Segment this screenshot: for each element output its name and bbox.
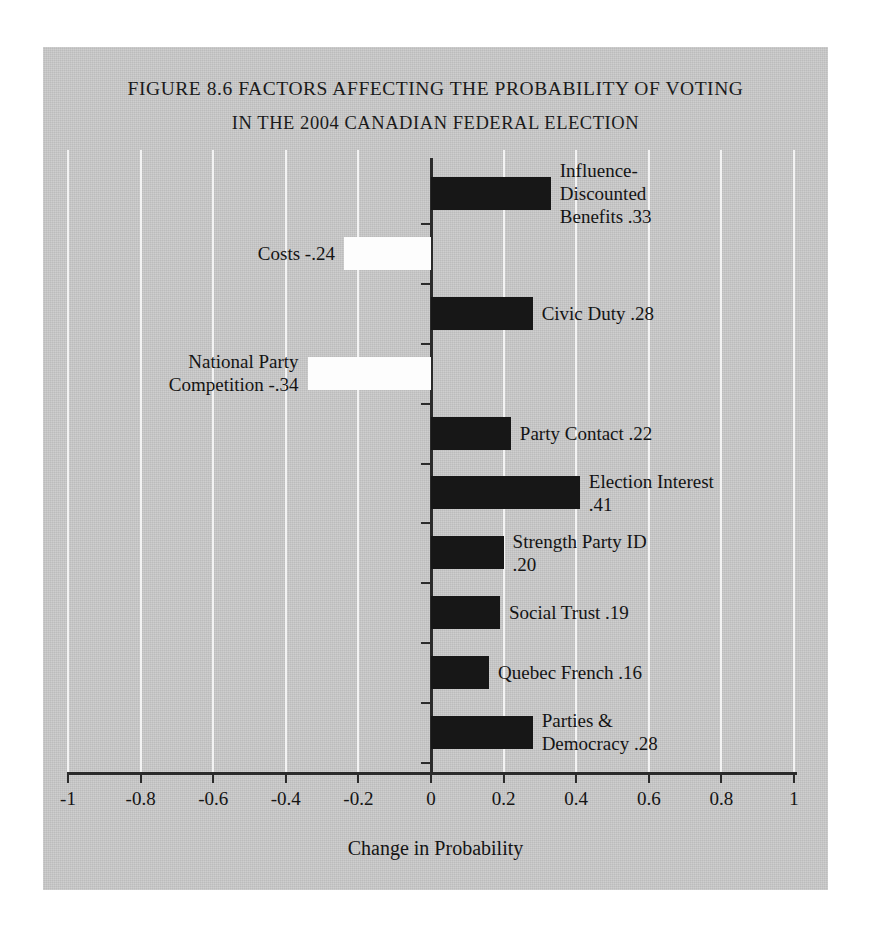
bar-national-party-competition xyxy=(308,357,431,390)
bar-label-strength-party-id: Strength Party ID .20 xyxy=(513,530,647,576)
chart-title-line-2: in the 2004 Canadian Federal Election xyxy=(43,106,828,140)
gridline--0.8 xyxy=(140,150,142,772)
x-tick-label--0.6: -0.6 xyxy=(198,788,228,810)
x-tick-label-0: 0 xyxy=(426,788,436,810)
gridline-0.8 xyxy=(720,150,722,772)
x-axis-line xyxy=(68,772,797,775)
x-tick-0.6 xyxy=(648,772,650,783)
page-title: Figure 8.6 Factors Affecting the Probabi… xyxy=(43,72,828,140)
bar-label-national-party-competition: National Party Competition -.34 xyxy=(169,350,299,396)
gridline--0.6 xyxy=(212,150,214,772)
bar-label-influence-discounted-benefits: Influence- Discounted Benefits .33 xyxy=(560,159,652,228)
x-tick-label-0.8: 0.8 xyxy=(710,788,734,810)
x-tick-label-0.6: 0.6 xyxy=(637,788,661,810)
bar-label-civic-duty: Civic Duty .28 xyxy=(542,302,654,325)
bar-election-interest xyxy=(431,476,580,509)
bar-label-parties-democracy: Parties & Democracy .28 xyxy=(542,709,658,755)
bar-influence-discounted-benefits xyxy=(431,177,551,210)
x-tick-1 xyxy=(793,772,795,783)
bar-costs xyxy=(344,237,431,270)
y-axis-tick xyxy=(421,702,430,704)
bar-label-election-interest: Election Interest .41 xyxy=(589,470,714,516)
x-tick-label-1: 1 xyxy=(789,788,799,810)
x-tick-label--0.8: -0.8 xyxy=(126,788,156,810)
bar-label-social-trust: Social Trust .19 xyxy=(509,601,629,624)
bar-label-costs: Costs -.24 xyxy=(258,242,335,265)
x-tick--0.4 xyxy=(285,772,287,783)
x-tick-label--1: -1 xyxy=(60,788,76,810)
gridline-0.6 xyxy=(648,150,650,772)
gridline-1 xyxy=(793,150,795,772)
bar-label-quebec-french: Quebec French .16 xyxy=(498,661,642,684)
x-tick--0.2 xyxy=(357,772,359,783)
gridline--1 xyxy=(67,150,69,772)
x-tick-0 xyxy=(430,772,432,783)
x-tick-label--0.4: -0.4 xyxy=(271,788,301,810)
chart-title-line-1: Figure 8.6 Factors Affecting the Probabi… xyxy=(43,72,828,106)
x-tick--0.6 xyxy=(212,772,214,783)
y-axis-tick xyxy=(421,582,430,584)
x-tick--1 xyxy=(67,772,69,783)
x-tick-0.2 xyxy=(503,772,505,783)
y-axis-tick xyxy=(421,403,430,405)
bar-label-party-contact: Party Contact .22 xyxy=(520,422,652,445)
plot-area: Influence- Discounted Benefits .33Costs … xyxy=(68,150,794,772)
y-axis-tick xyxy=(421,283,430,285)
y-axis-tick xyxy=(421,762,430,764)
y-axis-tick xyxy=(421,343,430,345)
bar-strength-party-id xyxy=(431,536,504,569)
y-axis-tick xyxy=(421,522,430,524)
x-axis-title: Change in Probability xyxy=(43,837,828,860)
bar-parties-democracy xyxy=(431,716,533,749)
y-axis-tick xyxy=(421,463,430,465)
bar-civic-duty xyxy=(431,297,533,330)
x-tick-label-0.2: 0.2 xyxy=(492,788,516,810)
x-tick-label--0.2: -0.2 xyxy=(343,788,373,810)
bar-quebec-french xyxy=(431,656,489,689)
x-tick-0.8 xyxy=(720,772,722,783)
y-axis-tick xyxy=(421,642,430,644)
x-tick-label-0.4: 0.4 xyxy=(564,788,588,810)
x-tick--0.8 xyxy=(140,772,142,783)
x-tick-0.4 xyxy=(575,772,577,783)
bar-party-contact xyxy=(431,417,511,450)
y-axis-tick xyxy=(421,223,430,225)
bar-social-trust xyxy=(431,596,500,629)
figure-panel: Figure 8.6 Factors Affecting the Probabi… xyxy=(43,47,828,890)
